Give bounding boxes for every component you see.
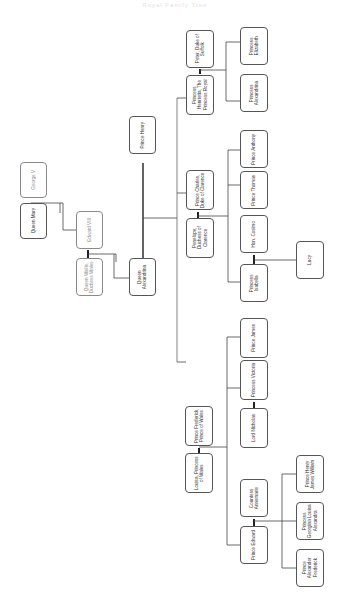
node-princess-alexandrina[interactable]: Princess Alexandrina xyxy=(240,74,268,112)
node-label: Queen Mary xyxy=(31,208,36,233)
node-lord-nicholas[interactable]: Lord Nicholas xyxy=(240,408,268,448)
node-label: Hon. Cosimo xyxy=(251,221,256,248)
connector-lines xyxy=(0,0,344,600)
node-label: George V xyxy=(31,170,36,190)
node-label: Princess Alexandrina xyxy=(249,76,260,110)
node-prince-james[interactable]: Prince James xyxy=(240,318,268,358)
node-penelope[interactable]: Penelope, Duchess of Clarence xyxy=(186,218,214,258)
node-prince-edward[interactable]: Prince Edward xyxy=(240,526,268,564)
node-label: Queen Alexandrina xyxy=(137,260,148,294)
node-label: Prince Alexander Frederick xyxy=(302,551,318,585)
node-label: Lucy xyxy=(307,255,312,265)
node-prince-alexander[interactable]: Prince Alexander Frederick xyxy=(296,549,324,587)
node-label: Prince Henry James William xyxy=(305,457,316,491)
node-label: Princess Georgina Louisa Alexandra xyxy=(302,504,318,538)
node-prince-frederick[interactable]: Prince Frederick, Prince of Wales xyxy=(185,406,213,446)
node-label: Queen Wallis, Duchess Wales xyxy=(84,260,95,294)
node-edward-viii[interactable]: Edward VIII xyxy=(76,211,103,249)
node-label: Prince James xyxy=(251,324,256,352)
node-label: Princess Isabella xyxy=(249,266,260,300)
node-prince-charles[interactable]: Prince Charles, Duke of Clarence xyxy=(186,170,214,210)
node-label: Louisa, Princess of Wales xyxy=(194,455,205,491)
node-princess-victoria[interactable]: Princess Victoria xyxy=(240,360,268,400)
node-louisa[interactable]: Louisa, Princess of Wales xyxy=(185,453,213,493)
node-label: Princess Henrietta, The Princess Royal xyxy=(192,77,208,113)
node-label: Lord Nicholas xyxy=(251,414,256,442)
node-queen-alexandrina[interactable]: Queen Alexandrina xyxy=(129,258,156,296)
node-peter-suffolk[interactable]: Peter, Duke of Suffolk xyxy=(186,30,214,68)
node-label: Prince Thomas xyxy=(251,175,256,206)
node-queen-wallis[interactable]: Queen Wallis, Duchess Wales xyxy=(76,258,103,296)
node-queen-mary[interactable]: Queen Mary xyxy=(20,203,47,239)
node-george-v[interactable]: George V xyxy=(20,162,47,198)
node-label: Penelope, Duchess of Clarence xyxy=(192,220,208,256)
node-princess-elizabeth[interactable]: Princess Elizabeth xyxy=(240,27,268,65)
node-label: Prince Henry xyxy=(140,122,145,149)
node-label: Countess Annemarie xyxy=(249,481,260,515)
node-label: Edward VIII xyxy=(87,218,92,242)
node-label: Prince Anthony xyxy=(251,134,256,165)
node-countess-annemarie[interactable]: Countess Annemarie xyxy=(240,479,268,517)
node-prince-thomas[interactable]: Prince Thomas xyxy=(240,171,268,209)
node-princess-henrietta[interactable]: Princess Henrietta, The Princess Royal xyxy=(186,75,214,115)
node-label: Prince Edward xyxy=(251,530,256,560)
node-hon-cosimo[interactable]: Hon. Cosimo xyxy=(240,215,268,253)
node-label: Princess Elizabeth xyxy=(249,29,260,63)
node-prince-henry-james[interactable]: Prince Henry James William xyxy=(296,455,324,493)
node-princess-isabella[interactable]: Princess Isabella xyxy=(240,264,268,302)
node-princess-georgina[interactable]: Princess Georgina Louisa Alexandra xyxy=(296,502,324,540)
node-prince-anthony[interactable]: Prince Anthony xyxy=(240,130,268,168)
node-label: Prince Charles, Duke of Clarence xyxy=(195,172,206,208)
node-prince-henry[interactable]: Prince Henry xyxy=(129,116,156,154)
node-label: Prince Frederick, Prince of Wales xyxy=(194,408,205,444)
node-label: Princess Victoria xyxy=(251,363,256,397)
node-label: Peter, Duke of Suffolk xyxy=(195,32,206,66)
node-lucy[interactable]: Lucy xyxy=(296,241,324,279)
